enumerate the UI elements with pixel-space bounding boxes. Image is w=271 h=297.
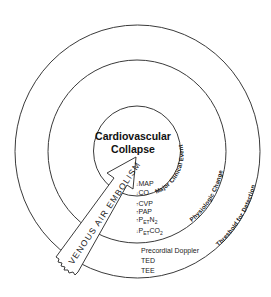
method-ted: TED bbox=[141, 257, 155, 264]
outer-band-methods: Precordial Doppler TED TEE bbox=[141, 247, 200, 274]
indicator-pap: ↑PAP bbox=[136, 208, 152, 215]
indicator-co: ↓CO bbox=[136, 189, 150, 196]
middle-ring-label: Physiologic Change bbox=[189, 169, 224, 223]
indicator-petco2: ↓PETCO2 bbox=[136, 227, 163, 236]
arrow-label: VENOUS AIR EMBOLISM bbox=[66, 159, 143, 266]
indicator-cvp: ↑CVP bbox=[136, 200, 153, 207]
venous-air-embolism-diagram: Cardiovascular Collapse Major Clinical E… bbox=[0, 0, 271, 297]
center-title-line2: Collapse bbox=[111, 143, 155, 155]
outer-ring-label: Threshold for Detection bbox=[215, 184, 256, 247]
inner-ring-label: Major Clinical Event bbox=[154, 144, 184, 195]
method-tee: TEE bbox=[141, 267, 155, 274]
center-title-line1: Cardiovascular bbox=[95, 130, 171, 142]
indicator-map: ↓MAP bbox=[136, 180, 154, 187]
method-precordial-doppler: Precordial Doppler bbox=[141, 247, 200, 255]
indicator-petn2: ↑PETN2 bbox=[136, 216, 158, 225]
middle-band-indicators: ↑CVP ↑PAP ↑PETN2 ↓PETCO2 bbox=[136, 200, 163, 236]
